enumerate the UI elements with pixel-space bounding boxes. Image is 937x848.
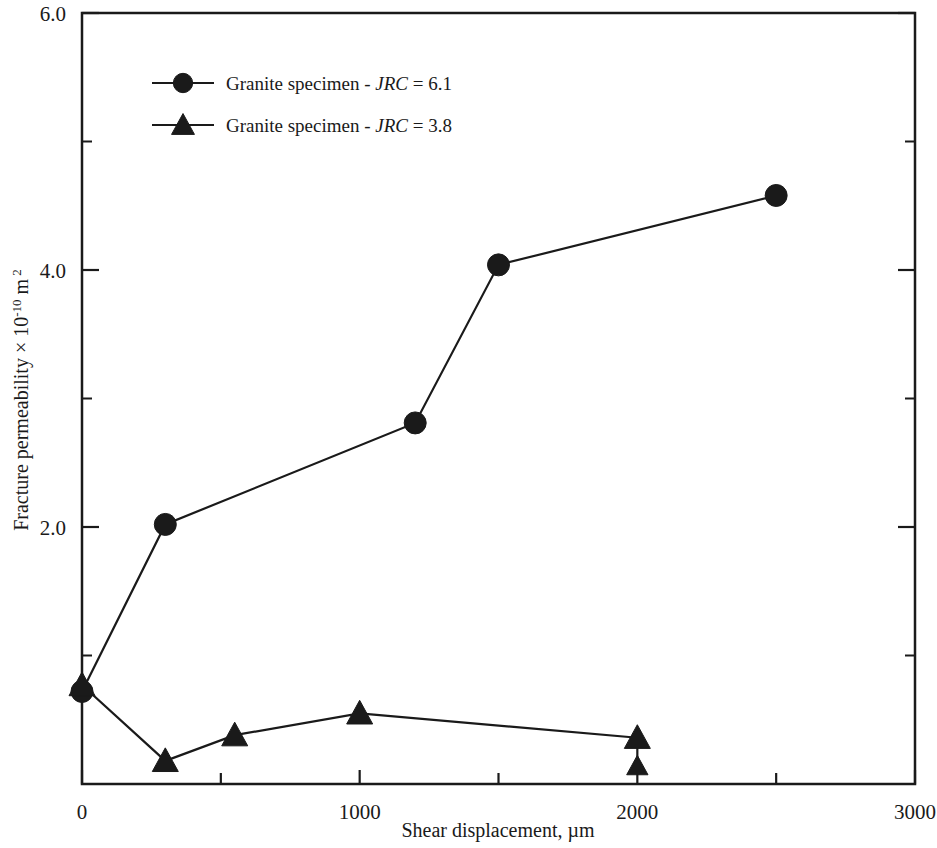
data-point-triangle xyxy=(347,700,373,724)
x-tick-label: 3000 xyxy=(894,800,936,824)
y-axis-tick-labels: 2.04.06.0 xyxy=(40,2,66,540)
chart-figure: 0100020003000 2.04.06.0 Shear displaceme… xyxy=(0,0,937,848)
chart-legend: Granite specimen - JRC = 6.1Granite spec… xyxy=(152,73,452,136)
series-2 xyxy=(69,672,650,775)
series-line xyxy=(82,195,776,691)
x-tick-label: 2000 xyxy=(616,800,658,824)
y-tick-label: 4.0 xyxy=(40,259,66,283)
data-point-circle xyxy=(154,513,176,535)
x-axis-title: Shear displacement, µm xyxy=(401,819,595,842)
x-axis-ticks xyxy=(82,770,915,784)
y-tick-label: 6.0 xyxy=(40,2,66,26)
series-1 xyxy=(71,184,787,702)
y-axis-ticks xyxy=(82,13,915,656)
x-tick-label: 0 xyxy=(77,800,88,824)
x-tick-label: 1000 xyxy=(339,800,381,824)
data-point-circle xyxy=(173,73,192,92)
y-axis-title: Fracture permeability × 10-10 m 2 xyxy=(9,269,33,531)
legend-item-2: Granite specimen - JRC = 3.8 xyxy=(152,114,452,136)
permeability-vs-shear-displacement-chart: 0100020003000 2.04.06.0 Shear displaceme… xyxy=(0,0,937,848)
y-tick-label: 2.0 xyxy=(40,516,66,540)
data-series-layer xyxy=(69,184,787,774)
data-point-circle xyxy=(488,254,510,276)
data-point-triangle xyxy=(627,755,648,774)
legend-item-1: Granite specimen - JRC = 6.1 xyxy=(152,73,452,94)
data-point-circle xyxy=(404,412,426,434)
legend-label: Granite specimen - JRC = 6.1 xyxy=(226,73,452,94)
data-point-circle xyxy=(765,184,787,206)
legend-label: Granite specimen - JRC = 3.8 xyxy=(226,115,452,136)
plot-frame xyxy=(82,13,915,784)
